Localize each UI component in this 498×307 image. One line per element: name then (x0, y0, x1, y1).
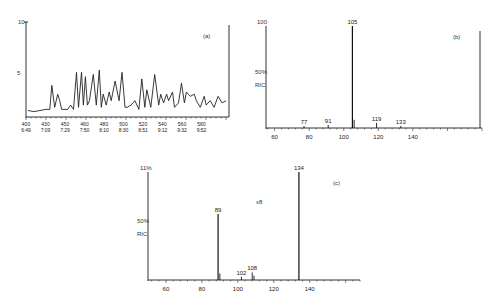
svg-text:7:29: 7:29 (60, 127, 70, 133)
svg-text:7:50: 7:50 (80, 127, 90, 133)
svg-text:120: 120 (269, 286, 280, 292)
svg-text:105: 105 (347, 19, 358, 25)
svg-text:8:10: 8:10 (99, 127, 109, 133)
svg-text:80: 80 (199, 286, 206, 292)
svg-text:108: 108 (247, 265, 258, 271)
svg-text:9:52: 9:52 (197, 127, 207, 133)
svg-text:91: 91 (325, 118, 332, 124)
mass-spectrum-panel-b: 100 50% RIC (b) 608010012014077911051191… (250, 0, 498, 140)
spectrum-b-plot: 60801001201407791105119133 (250, 0, 498, 140)
svg-text:102: 102 (236, 270, 247, 276)
svg-text:100: 100 (339, 134, 350, 140)
chromatogram-plot: 4006:494307:094507:294607:504808:105008:… (0, 0, 250, 140)
svg-text:8:30: 8:30 (119, 127, 129, 133)
svg-text:80: 80 (306, 134, 313, 140)
svg-text:133: 133 (396, 119, 407, 125)
svg-text:140: 140 (305, 286, 316, 292)
spectrum-c-plot: 608010012014089102108134 (130, 155, 370, 307)
svg-text:89: 89 (215, 207, 222, 213)
svg-text:100: 100 (233, 286, 244, 292)
chromatogram-panel-a: 10 5 (a) 4006:494307:094507:294607:50480… (0, 0, 250, 140)
svg-text:9:32: 9:32 (177, 127, 187, 133)
svg-text:7:09: 7:09 (41, 127, 51, 133)
svg-text:6:49: 6:49 (21, 127, 31, 133)
svg-text:60: 60 (271, 134, 278, 140)
svg-text:120: 120 (373, 134, 384, 140)
svg-text:119: 119 (372, 116, 382, 122)
svg-text:134: 134 (294, 165, 305, 171)
mass-spectrum-panel-c: 11% 50% RIC (c) x8 608010012014089102108… (130, 155, 370, 307)
svg-text:60: 60 (163, 286, 170, 292)
svg-text:8:51: 8:51 (138, 127, 148, 133)
svg-text:77: 77 (301, 119, 308, 125)
svg-text:140: 140 (408, 134, 419, 140)
svg-text:9:12: 9:12 (158, 127, 168, 133)
